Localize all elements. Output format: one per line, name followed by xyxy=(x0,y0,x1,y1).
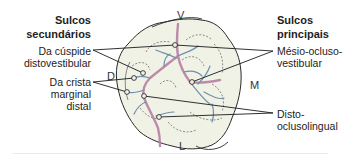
label-mesio-occluso-buccal: Mésio-ocluso- vestibular xyxy=(277,45,342,69)
orientation-distal: D xyxy=(107,70,115,82)
label-line: Disto- xyxy=(277,108,338,120)
label-line: Da crista xyxy=(50,76,91,88)
label-line: Da cúspide xyxy=(24,45,91,57)
label-disto-occlusolingual: Disto- oclusolingual xyxy=(277,108,338,132)
label-distal-marginal-ridge-groove: Da crista marginal distal xyxy=(50,76,91,112)
label-line: marginal xyxy=(50,88,91,100)
label-line: distovestibular xyxy=(24,57,91,69)
bottom-divider xyxy=(12,153,328,154)
tooth-outline xyxy=(116,18,241,150)
orientation-lingual: L xyxy=(179,140,185,152)
heading-line: principais xyxy=(277,27,329,41)
orientation-vestibular: V xyxy=(177,9,184,21)
heading-line: Sulcos xyxy=(26,13,91,27)
secondary-grooves-heading: Sulcos secundários xyxy=(26,13,91,41)
label-line: oclusolingual xyxy=(277,120,338,132)
label-line: Mésio-ocluso- xyxy=(277,45,342,57)
label-line: vestibular xyxy=(277,57,342,69)
orientation-mesial: M xyxy=(250,79,259,91)
label-line: distal xyxy=(50,100,91,112)
main-grooves-heading: Sulcos principais xyxy=(277,13,329,41)
heading-line: Sulcos xyxy=(277,13,329,27)
label-distobuccal-cusp-groove: Da cúspide distovestibular xyxy=(24,45,91,69)
heading-line: secundários xyxy=(26,27,91,41)
